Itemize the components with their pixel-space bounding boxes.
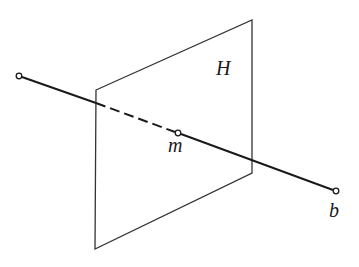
plane-label-h: H xyxy=(215,57,232,79)
line-segment-front-right xyxy=(181,134,333,190)
line-start-point xyxy=(16,73,22,79)
point-label-m: m xyxy=(168,134,182,156)
line-segment-hidden xyxy=(96,103,175,132)
line-segment-front-left xyxy=(22,77,96,103)
diagram-canvas: H m b xyxy=(0,0,359,267)
point-label-b: b xyxy=(329,199,339,221)
line-end-point-b xyxy=(333,188,339,194)
